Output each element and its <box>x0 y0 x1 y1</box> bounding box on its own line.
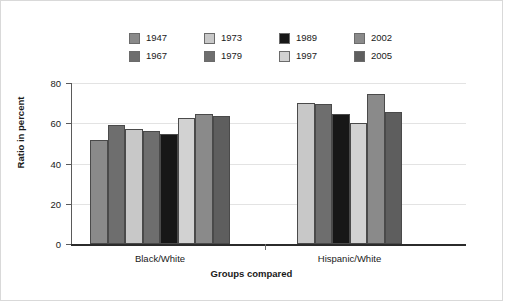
legend-label: 2005 <box>371 51 392 61</box>
bar-2005[interactable] <box>385 112 403 244</box>
legend-label: 1979 <box>221 51 242 61</box>
legend-label: 1973 <box>221 33 242 43</box>
legend-label: 1997 <box>296 51 317 61</box>
legend-row: 1947197319892002 <box>129 29 429 47</box>
legend-item-1947[interactable]: 1947 <box>129 33 204 44</box>
bar-1997[interactable] <box>350 123 368 244</box>
legend-label: 1947 <box>146 33 167 43</box>
bar-1973[interactable] <box>297 103 315 244</box>
legend-label: 1967 <box>146 51 167 61</box>
y-axis-tick-label: 40 <box>27 158 61 169</box>
bar-1967[interactable] <box>108 125 126 244</box>
bar-1997[interactable] <box>178 118 196 244</box>
legend-item-2002[interactable]: 2002 <box>354 33 429 44</box>
x-axis-group-label-black-white: Black/White <box>110 253 210 264</box>
bar-1973[interactable] <box>125 129 143 244</box>
legend-item-1989[interactable]: 1989 <box>279 33 354 44</box>
y-axis-title: Ratio in percent <box>15 78 26 188</box>
bar-1989[interactable] <box>332 114 350 244</box>
y-axis-tick-label: 60 <box>27 118 61 129</box>
x-axis-group-label-hispanic-white: Hispanic/White <box>300 253 400 264</box>
x-axis-line <box>71 244 466 246</box>
group-separator-tick <box>265 244 266 250</box>
bar-1989[interactable] <box>160 134 178 244</box>
legend-swatch-icon <box>129 33 140 44</box>
chart-figure: 19471973198920021967197919972005 Ratio i… <box>0 0 503 301</box>
plot-area <box>72 83 466 244</box>
legend-swatch-icon <box>354 51 365 62</box>
bar-1979[interactable] <box>315 104 333 244</box>
legend-item-1979[interactable]: 1979 <box>204 51 279 62</box>
legend-item-2005[interactable]: 2005 <box>354 51 429 62</box>
bar-2002[interactable] <box>367 94 385 244</box>
legend-swatch-icon <box>204 51 215 62</box>
legend-swatch-icon <box>354 33 365 44</box>
legend-item-1967[interactable]: 1967 <box>129 51 204 62</box>
legend-item-1997[interactable]: 1997 <box>279 51 354 62</box>
gridline <box>72 83 466 84</box>
gridline <box>72 123 466 124</box>
x-axis-title: Groups compared <box>1 268 502 279</box>
legend-swatch-icon <box>129 51 140 62</box>
bar-1979[interactable] <box>143 131 161 244</box>
legend-swatch-icon <box>279 51 290 62</box>
bar-2005[interactable] <box>213 116 231 244</box>
y-axis-tick-label: 0 <box>27 239 61 250</box>
legend-swatch-icon <box>279 33 290 44</box>
chart-legend: 19471973198920021967197919972005 <box>129 29 429 65</box>
legend-label: 1989 <box>296 33 317 43</box>
y-axis-tick-label: 20 <box>27 198 61 209</box>
bar-1947[interactable] <box>90 140 108 244</box>
legend-swatch-icon <box>204 33 215 44</box>
legend-row: 1967197919972005 <box>129 47 429 65</box>
legend-item-1973[interactable]: 1973 <box>204 33 279 44</box>
y-axis-tick-label: 80 <box>27 78 61 89</box>
bar-2002[interactable] <box>195 114 213 244</box>
legend-label: 2002 <box>371 33 392 43</box>
